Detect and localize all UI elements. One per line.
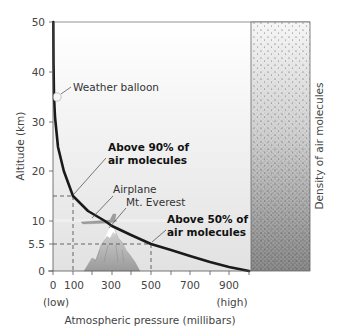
airplane-label: Airplane [113, 183, 157, 195]
svg-text:30: 30 [32, 116, 45, 128]
above50-label-line2: air molecules [167, 226, 246, 238]
x-low-label: (low) [43, 296, 69, 308]
above50-label-line1: Above 50% of [167, 213, 248, 225]
above90-label-line2: air molecules [108, 154, 187, 166]
everest-label: Mt. Everest [126, 196, 185, 208]
y-axis-title: Altitude (km) [14, 112, 26, 181]
x-high-label: (high) [216, 296, 247, 308]
svg-text:500: 500 [141, 279, 161, 291]
weather-balloon-label: Weather balloon [73, 81, 159, 93]
x-ticks [53, 271, 249, 275]
svg-text:0: 0 [38, 265, 45, 277]
svg-text:10: 10 [32, 215, 45, 227]
density-axis-title: Density of air molecules [313, 82, 325, 209]
svg-text:40: 40 [32, 66, 45, 78]
svg-text:0: 0 [50, 279, 57, 291]
svg-text:20: 20 [32, 165, 45, 177]
svg-text:900: 900 [219, 279, 239, 291]
svg-text:50: 50 [32, 16, 45, 28]
above90-label-line1: Above 90% of [108, 141, 189, 153]
x-axis-title: Atmospheric pressure (millibars) [64, 314, 235, 326]
svg-text:300: 300 [101, 279, 121, 291]
density-column [251, 22, 310, 271]
svg-text:700: 700 [180, 279, 200, 291]
weather-balloon-marker [53, 93, 61, 101]
svg-text:100: 100 [64, 279, 84, 291]
y-tick-labels: 50 40 30 20 10 5.5 0 [28, 16, 45, 277]
x-tick-labels: 0 100 300 500 700 900 [50, 279, 239, 291]
pressure-altitude-chart: Weather balloon Above 90% of air molecul… [0, 0, 342, 333]
svg-text:5.5: 5.5 [28, 238, 45, 250]
